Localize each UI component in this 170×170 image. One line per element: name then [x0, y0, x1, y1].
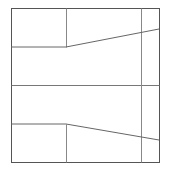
profile-line: [11, 124, 159, 140]
diagram-canvas: [0, 0, 170, 170]
profile-line: [11, 29, 159, 47]
profile-lines: [11, 29, 159, 140]
divider-lines: [12, 9, 160, 163]
